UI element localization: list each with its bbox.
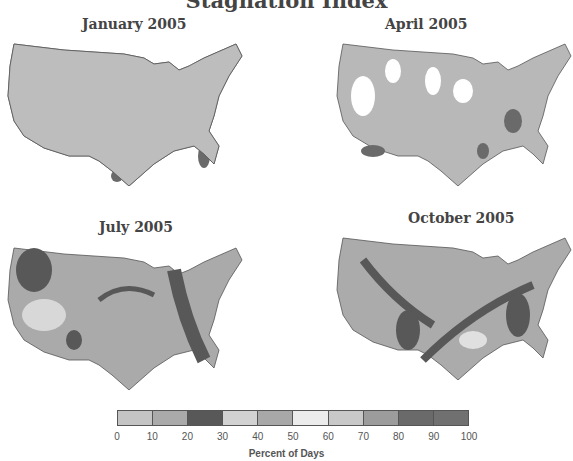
legend-tick: 60 <box>323 431 334 442</box>
panel-title-april: April 2005 <box>385 16 468 32</box>
legend-swatch <box>364 411 399 425</box>
legend-ticks: 0 10 20 30 40 50 60 70 80 90 100 <box>117 431 469 445</box>
map-july <box>4 240 244 390</box>
legend-tick: 100 <box>461 431 478 442</box>
legend-tick: 90 <box>428 431 439 442</box>
legend-tick: 20 <box>182 431 193 442</box>
legend-tick: 0 <box>114 431 120 442</box>
legend-tick: 80 <box>393 431 404 442</box>
map-october <box>333 230 573 380</box>
legend-tick: 50 <box>287 431 298 442</box>
panel-title-july: July 2005 <box>99 219 173 235</box>
legend-swatch <box>188 411 223 425</box>
map-january <box>4 36 244 186</box>
legend-swatch <box>223 411 258 425</box>
legend-swatch <box>153 411 188 425</box>
legend-tick: 10 <box>147 431 158 442</box>
map-april <box>333 36 573 186</box>
panel-title-january: January 2005 <box>82 16 186 32</box>
legend-tick: 30 <box>217 431 228 442</box>
legend-swatch <box>434 411 468 425</box>
legend-swatch <box>258 411 293 425</box>
main-title: Stagnation Index <box>0 0 573 13</box>
legend-tick: 40 <box>252 431 263 442</box>
legend-tick: 70 <box>358 431 369 442</box>
legend-swatch <box>293 411 328 425</box>
legend-label: Percent of Days <box>0 448 573 459</box>
panel-title-october: October 2005 <box>408 210 514 226</box>
legend-swatch <box>329 411 364 425</box>
legend-swatch <box>399 411 434 425</box>
color-legend <box>117 410 469 426</box>
legend-swatch <box>118 411 153 425</box>
